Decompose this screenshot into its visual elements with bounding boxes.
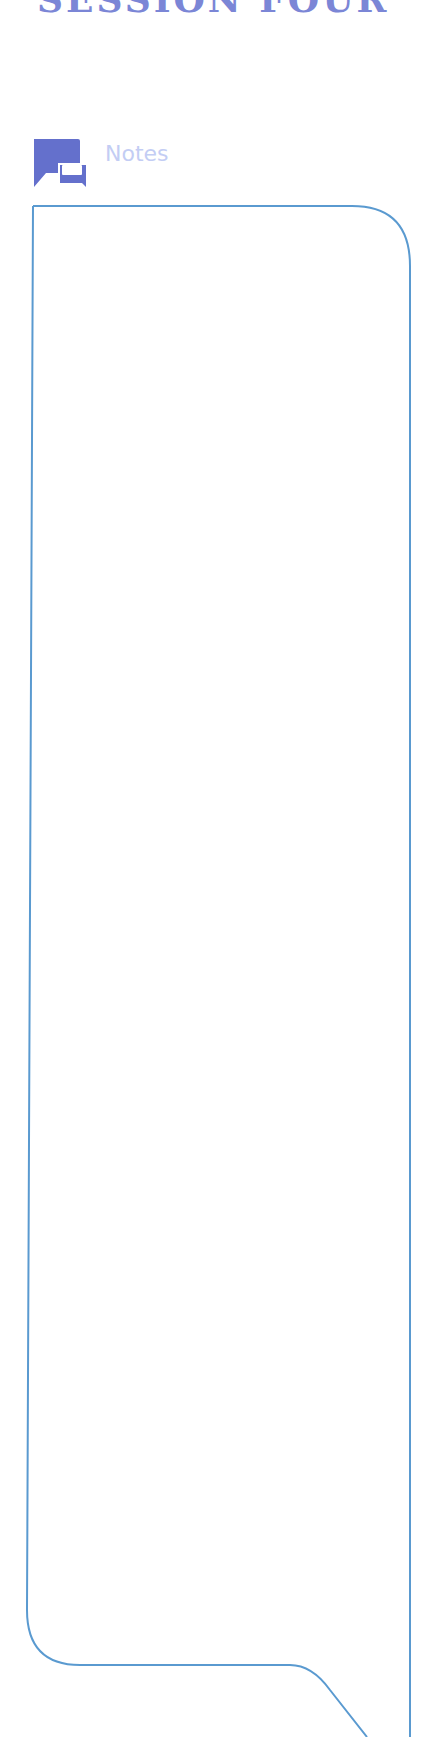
notes-text-area[interactable] (0, 0, 423, 1737)
